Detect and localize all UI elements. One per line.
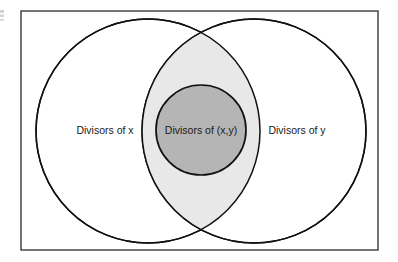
label-divisors-of-x: Divisors of x xyxy=(76,124,134,136)
venn-diagram-canvas: Divisors of x Divisors of (x,y) Divisors… xyxy=(0,0,398,262)
venn-diagram-figure: Divisors of x Divisors of (x,y) Divisors… xyxy=(0,0,398,262)
label-divisors-of-xy: Divisors of (x,y) xyxy=(165,124,237,136)
label-divisors-of-y: Divisors of y xyxy=(268,124,326,136)
